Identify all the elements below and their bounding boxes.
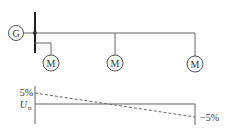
motor-1-feeder <box>35 43 51 55</box>
motor-1-label: M <box>47 58 56 69</box>
motor-3-label: M <box>191 59 200 70</box>
generator-label: G <box>12 28 19 39</box>
diagram-canvas: G M M M 5% U n −5% <box>0 0 233 139</box>
nominal-label: U <box>20 99 28 110</box>
motor-icon: M <box>107 55 123 71</box>
motor-2-label: M <box>111 58 120 69</box>
end-percent-label: −5% <box>200 112 219 123</box>
top-percent-label: 5% <box>20 87 33 98</box>
generator-icon: G <box>9 26 24 41</box>
motor-icon: M <box>187 56 203 72</box>
voltage-drop-line <box>35 93 195 117</box>
nominal-label-subscript: n <box>28 104 32 112</box>
motor-icon: M <box>43 55 59 71</box>
